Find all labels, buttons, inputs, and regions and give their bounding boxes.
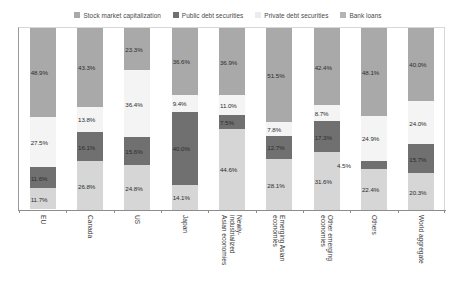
bar-segment[interactable]: 15.6% — [124, 137, 150, 165]
stacked-bar[interactable]: 43.3%13.8%16.1%26.8% — [77, 28, 103, 210]
bar-segment[interactable]: 7.5% — [219, 115, 245, 129]
legend-swatch-icon — [173, 12, 179, 18]
bar-segment-value-label: 24.8% — [125, 184, 142, 191]
category-label-slot: Japan — [161, 214, 208, 300]
bar-segment[interactable]: 51.5% — [266, 28, 292, 122]
bar-segment[interactable]: 9.4% — [172, 95, 198, 112]
bar-segment[interactable]: 48.1% — [361, 28, 387, 116]
legend-item[interactable]: Public debt securities — [173, 12, 244, 19]
bar-segment[interactable]: 27.5% — [30, 117, 56, 167]
bar-segment[interactable]: 11.7% — [30, 188, 56, 209]
bar-segment-value-label: 24.0% — [409, 119, 426, 126]
bar-segment[interactable]: 22.4% — [361, 169, 387, 210]
category-label: EU — [39, 215, 46, 299]
tick-mark — [208, 210, 209, 213]
bar-segment[interactable]: 24.0% — [408, 101, 434, 145]
bar-slot: 36.6%9.4%40.0%14.1% — [161, 28, 208, 210]
category-label-slot: Other emerging economies — [303, 214, 350, 300]
bar-segment-value-label: 51.5% — [267, 71, 284, 78]
bar-segment[interactable]: 15.7% — [408, 144, 434, 173]
bar-segment-value-label: 26.8% — [78, 182, 95, 189]
bar-segment[interactable]: 24.9% — [361, 116, 387, 161]
category-label: Newly- industrialized Asian economies — [221, 215, 243, 299]
bar-segment-value-label: 11.7% — [31, 195, 48, 202]
bar-segment[interactable]: 28.1% — [266, 159, 292, 210]
bar-segment[interactable]: 12.7% — [266, 136, 292, 159]
bar-segment[interactable]: 11.6% — [30, 167, 56, 188]
legend-item-label: Private debt securities — [264, 12, 328, 19]
bar-segment-value-label: 9.4% — [173, 100, 187, 107]
bar-segment[interactable]: 23.3% — [124, 28, 150, 70]
bar-slot: 42.4%8.7%17.3%31.6% — [303, 28, 350, 210]
tick-mark — [66, 210, 67, 213]
stacked-bar[interactable]: 48.9%27.5%11.6%11.7% — [30, 28, 56, 210]
bar-slot: 40.0%24.0%15.7%20.3% — [398, 28, 445, 210]
stacked-bar[interactable]: 36.6%9.4%40.0%14.1% — [172, 28, 198, 210]
bar-segment-value-label: 44.6% — [220, 166, 237, 173]
bar-segment-value-label: 23.3% — [125, 46, 142, 53]
bar-segment[interactable]: 36.9% — [219, 28, 245, 95]
bar-segment-value-label: 11.0% — [220, 102, 237, 109]
bar-slot: 51.5%7.8%12.7%28.1% — [256, 28, 303, 210]
bar-segment-value-label: 48.1% — [362, 68, 379, 75]
bar-segment[interactable]: 16.1% — [77, 132, 103, 161]
bar-segment[interactable]: 48.9% — [30, 28, 56, 117]
bar-segment[interactable]: 43.3% — [77, 28, 103, 107]
bar-segment-value-label: 28.1% — [267, 181, 284, 188]
bar-segment-value-label: 15.7% — [409, 155, 426, 162]
stacked-bar[interactable]: 36.9%11.0%7.5%44.6% — [219, 28, 245, 210]
x-axis-category-labels: EUCanadaUSJapanNewly- industrialized Asi… — [19, 214, 445, 300]
legend-swatch-icon — [74, 12, 80, 18]
bar-segment[interactable]: 40.0% — [408, 28, 434, 101]
bar-segment[interactable]: 36.6% — [172, 28, 198, 95]
bar-segment-value-label: 36.9% — [220, 58, 237, 65]
bar-segment-value-label: 17.3% — [315, 133, 332, 140]
bar-segment[interactable]: 40.0% — [172, 112, 198, 185]
tick-mark — [114, 210, 115, 213]
bar-segment-value-label: 36.4% — [125, 100, 142, 107]
stacked-bar[interactable]: 48.1%24.9%4.5%22.4% — [361, 28, 387, 210]
bar-segment[interactable]: 36.4% — [124, 70, 150, 136]
bar-segment-value-label: 31.6% — [315, 178, 332, 185]
bar-segment-value-label: 14.1% — [173, 194, 190, 201]
chart-legend: Stock market capitalizationPublic debt s… — [0, 9, 456, 21]
bar-segment-value-label: 15.6% — [125, 147, 142, 154]
stacked-bar[interactable]: 51.5%7.8%12.7%28.1% — [266, 28, 292, 210]
tick-mark — [398, 210, 399, 213]
bar-segment-value-label: 7.5% — [220, 118, 234, 125]
legend-item[interactable]: Private debt securities — [255, 12, 328, 19]
bar-segment-value-label: 8.7% — [315, 110, 329, 117]
tick-mark — [303, 210, 304, 213]
bar-segment[interactable]: 44.6% — [219, 129, 245, 210]
category-label-slot: Newly- industrialized Asian economies — [208, 214, 255, 300]
bar-segment[interactable]: 20.3% — [408, 173, 434, 210]
category-label: Emerging Asian economies — [272, 215, 287, 299]
bar-slot: 48.9%27.5%11.6%11.7% — [19, 28, 66, 210]
bar-segment[interactable]: 42.4% — [314, 28, 340, 105]
category-label-slot: US — [114, 214, 161, 300]
stacked-bar[interactable]: 42.4%8.7%17.3%31.6% — [314, 28, 340, 210]
bar-segment[interactable]: 26.8% — [77, 161, 103, 210]
bar-segment[interactable]: 31.6% — [314, 152, 340, 210]
bar-segment-value-label: 16.1% — [78, 143, 95, 150]
bar-segment[interactable]: 13.8% — [77, 107, 103, 132]
bar-segment[interactable]: 4.5% — [361, 161, 387, 169]
stacked-bar[interactable]: 23.3%36.4%15.6%24.8% — [124, 28, 150, 210]
category-label: US — [134, 215, 141, 299]
bar-segment[interactable]: 7.8% — [266, 122, 292, 136]
bar-segment-value-label: 11.6% — [31, 174, 48, 181]
category-label: Other emerging economies — [319, 215, 334, 299]
tick-mark — [161, 210, 162, 213]
bar-segment[interactable]: 8.7% — [314, 105, 340, 121]
bar-slot: 36.9%11.0%7.5%44.6% — [208, 28, 255, 210]
legend-item[interactable]: Bank loans — [340, 12, 381, 19]
bar-segment[interactable]: 17.3% — [314, 121, 340, 152]
bar-segment[interactable]: 24.8% — [124, 165, 150, 210]
bar-segment[interactable]: 14.1% — [172, 185, 198, 211]
category-label-slot: Others — [350, 214, 397, 300]
legend-item[interactable]: Stock market capitalization — [74, 12, 160, 19]
stacked-bar[interactable]: 40.0%24.0%15.7%20.3% — [408, 28, 434, 210]
legend-item-label: Bank loans — [349, 12, 381, 19]
bar-segment[interactable]: 11.0% — [219, 95, 245, 115]
legend-item-label: Stock market capitalization — [83, 12, 160, 19]
